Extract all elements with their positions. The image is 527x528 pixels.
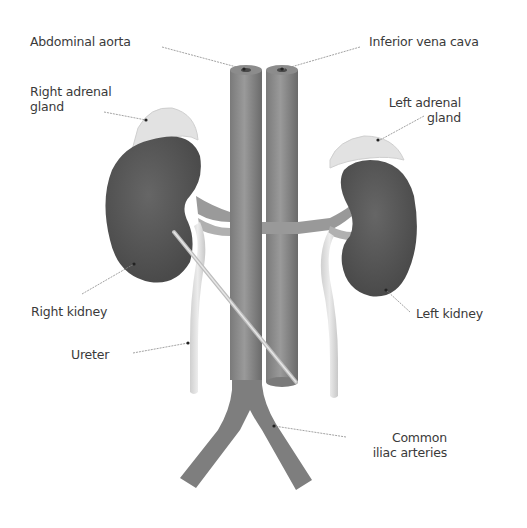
label-common-iliac-arteries: Common iliac arteries [355,430,447,460]
label-inferior-vena-cava: Inferior vena cava [369,34,479,49]
label-right-kidney: Right kidney [31,304,107,319]
right-kidney [105,136,200,282]
left-ureter [321,232,338,398]
kidney-anatomy-diagram [0,0,527,528]
label-left-adrenal-gland: Left adrenal gland [357,95,461,125]
label-ureter: Ureter [71,347,109,362]
label-left-kidney: Left kidney [416,306,483,321]
left-kidney [341,160,417,297]
label-right-adrenal-gland: Right adrenal gland [30,84,112,114]
label-abdominal-aorta: Abdominal aorta [30,34,131,49]
